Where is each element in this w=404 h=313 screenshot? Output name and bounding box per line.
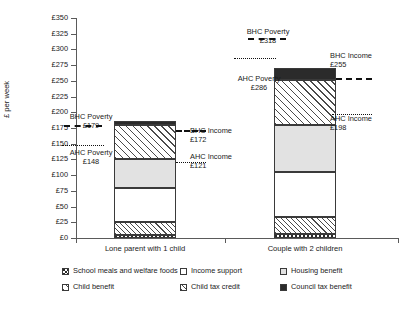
y-axis-tick: [71, 49, 76, 50]
annotation-amount: £255: [330, 60, 392, 69]
x-axis-tick: [398, 238, 399, 243]
threshold-line-ahc-poverty-1: [62, 145, 104, 146]
x-axis-label: Lone parent with 1 child: [65, 244, 225, 253]
stacked-bar: [274, 68, 336, 238]
legend-item: School meals and welfare foods: [62, 267, 178, 275]
legend-swatch: [180, 284, 187, 291]
bar-segment: [274, 125, 336, 172]
y-axis-tick: [71, 18, 76, 19]
annotation-label: BHC Poverty: [62, 112, 120, 121]
legend-row: Child benefitChild tax creditCouncil tax…: [62, 281, 362, 297]
y-axis-tick-label: £50: [56, 203, 68, 210]
bar-segment: [114, 188, 176, 223]
annotation-amount: £148: [62, 157, 120, 166]
legend-swatch: [280, 268, 287, 275]
y-axis-tick: [71, 207, 76, 208]
y-axis-tick: [71, 191, 76, 192]
threshold-line-ahc-income-2: [332, 114, 372, 115]
threshold-line-bhc-poverty-1: [64, 125, 102, 127]
chart-legend: School meals and welfare foodsIncome sup…: [62, 265, 362, 297]
legend-swatch: [280, 284, 287, 291]
y-axis-tick-label: £75: [56, 187, 68, 194]
legend-label: Housing benefit: [291, 267, 342, 275]
y-axis-tick-label: £325: [52, 30, 68, 37]
legend-label: Income support: [191, 267, 242, 275]
legend-row: School meals and welfare foodsIncome sup…: [62, 265, 362, 281]
bar-segment: [274, 217, 336, 233]
threshold-line-bhc-income-1: [176, 130, 206, 132]
y-axis-tick-label: £300: [52, 46, 68, 53]
annotation-ahc-income-2: AHC Income£198: [330, 114, 392, 133]
legend-swatch: [62, 268, 69, 275]
bar-segment: [114, 222, 176, 235]
legend-label: School meals and welfare foods: [73, 267, 178, 275]
threshold-line-ahc-poverty-2: [234, 58, 276, 59]
y-axis-tick-label: £100: [52, 171, 68, 178]
y-axis-tick-label: £250: [52, 77, 68, 84]
threshold-line-bhc-poverty-2: [248, 38, 286, 40]
annotation-amount: £172: [190, 135, 248, 144]
bar-segment: [114, 159, 176, 187]
y-axis-tick-label: £150: [52, 140, 68, 147]
bar-segment: [114, 125, 176, 159]
annotation-amount: £286: [226, 83, 292, 92]
legend-item: Council tax benefit: [280, 283, 352, 291]
annotation-label: AHC Income: [190, 152, 248, 161]
legend-item: Child tax credit: [180, 283, 240, 291]
annotation-label: AHC Poverty: [226, 74, 292, 83]
y-axis-tick: [71, 175, 76, 176]
y-axis-tick: [71, 65, 76, 66]
annotation-ahc-poverty-1: AHC Poverty£148: [62, 148, 120, 167]
x-axis-tick: [225, 238, 226, 243]
y-axis-tick: [71, 222, 76, 223]
annotation-ahc-poverty-2: AHC Poverty£286: [226, 74, 292, 93]
x-axis-label: Couple with 2 children: [225, 244, 385, 253]
y-axis-tick-label: £275: [52, 61, 68, 68]
bar-segment: [114, 235, 176, 238]
legend-label: Council tax benefit: [291, 283, 352, 291]
legend-swatch: [62, 284, 69, 291]
y-axis-tick-label: £225: [52, 93, 68, 100]
annotation-bhc-poverty-2: BHC Poverty£318: [232, 27, 304, 46]
annotation-label: AHC Poverty: [62, 148, 120, 157]
legend-item: Housing benefit: [280, 267, 342, 275]
stacked-bar-chart: £ per week £0£25£50£75£100£125£150£175£2…: [0, 0, 404, 313]
bar-segment: [114, 121, 176, 125]
annotation-label: AHC Income: [330, 114, 392, 123]
y-axis-tick-label: £350: [52, 14, 68, 21]
legend-label: Child benefit: [73, 283, 114, 291]
bar-segment: [274, 234, 336, 238]
x-axis-line: [76, 238, 398, 239]
legend-swatch: [180, 268, 187, 275]
y-axis-title: £ per week: [2, 81, 11, 118]
annotation-label: BHC Income: [330, 51, 392, 60]
y-axis-tick: [71, 34, 76, 35]
annotation-label: BHC Poverty: [232, 27, 304, 36]
threshold-line-bhc-income-2: [336, 78, 372, 80]
stacked-bar: [114, 121, 176, 238]
y-axis-tick: [71, 97, 76, 98]
legend-label: Child tax credit: [191, 283, 240, 291]
legend-item: Income support: [180, 267, 242, 275]
annotation-bhc-income-1: BHC Income£172: [190, 126, 248, 145]
bar-segment: [274, 172, 336, 217]
y-axis-tick-label: £25: [56, 219, 68, 226]
y-axis-tick-label: £0: [60, 234, 68, 241]
legend-item: Child benefit: [62, 283, 114, 291]
annotation-bhc-income-2: BHC Income£255: [330, 51, 392, 70]
annotation-bhc-poverty-1: BHC Poverty£179: [62, 112, 120, 131]
y-axis-tick: [71, 81, 76, 82]
annotation-amount: £198: [330, 123, 392, 132]
x-axis-tick: [76, 238, 77, 243]
threshold-line-ahc-income-1: [176, 162, 206, 163]
